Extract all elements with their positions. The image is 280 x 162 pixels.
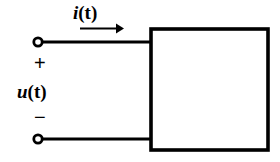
voltage-symbol: u (17, 81, 28, 102)
top-terminal-node (34, 38, 42, 46)
bottom-terminal-node (34, 135, 42, 143)
current-argument: (t) (78, 2, 97, 23)
voltage-label: u(t) (17, 82, 47, 101)
circuit-diagram-figure: i(t) u(t) + − (0, 0, 280, 162)
positive-polarity-sign: + (34, 53, 46, 73)
negative-polarity-sign: − (34, 107, 46, 127)
voltage-argument: (t) (28, 81, 47, 102)
current-direction-arrow (80, 24, 124, 34)
network-box-element (151, 29, 268, 150)
current-label: i(t) (73, 3, 97, 22)
